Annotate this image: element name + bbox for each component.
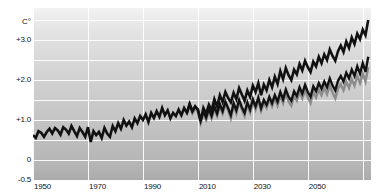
y-axis-tick-4: -0.5 xyxy=(0,176,31,184)
x-axis-tick-0: 1950 xyxy=(34,183,51,191)
y-axis-tick-1: +2.0 xyxy=(0,76,31,84)
plot-area xyxy=(33,8,371,180)
x-axis-tick-1: 1970 xyxy=(89,183,106,191)
series-line-mid-scenario xyxy=(187,57,368,121)
x-axis-tick-4: 2030 xyxy=(254,183,271,191)
y-axis-tick-2: +1.0 xyxy=(0,116,31,124)
y-axis-tick-3: 0 xyxy=(0,156,31,164)
y-axis-tick-0: +3.0 xyxy=(0,36,31,44)
x-axis-tick-5: 2050 xyxy=(309,183,326,191)
y-axis-unit-label: C° xyxy=(0,18,31,26)
x-axis-tick-3: 2010 xyxy=(199,183,216,191)
series-lines xyxy=(33,8,371,180)
x-axis-tick-2: 1990 xyxy=(144,183,161,191)
temperature-projection-chart: C° +3.0+2.0+1.00-0.5 1950197019902010203… xyxy=(0,0,386,196)
